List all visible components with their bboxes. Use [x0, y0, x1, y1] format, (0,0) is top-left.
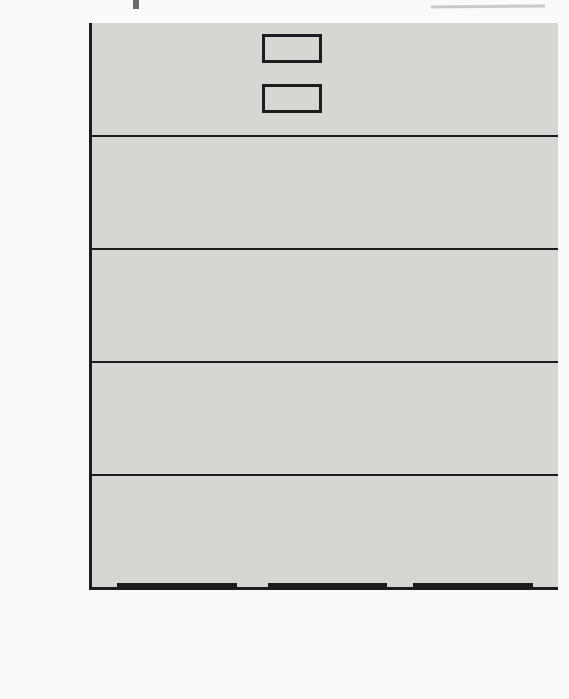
gridline-10 — [92, 474, 558, 476]
bar-girls-both-parents — [177, 583, 237, 587]
legend-swatch-girls — [262, 84, 322, 113]
gridline-40 — [92, 135, 558, 137]
bar-boys-both-parents — [117, 583, 177, 587]
bar-chart-figure — [0, 0, 569, 699]
plot-area — [89, 23, 558, 590]
bar-boys-neither-parent — [413, 583, 473, 587]
scan-artifact-streak — [431, 4, 545, 8]
bar-boys-one-parent — [268, 583, 327, 587]
legend-entry-boys — [262, 34, 334, 63]
gridline-30 — [92, 248, 558, 250]
scan-artifact-mark — [133, 0, 139, 9]
bar-girls-one-parent — [327, 583, 387, 587]
legend-entry-girls — [262, 84, 334, 113]
bar-girls-neither-parent — [473, 583, 533, 587]
gridline-20 — [92, 361, 558, 363]
legend — [262, 34, 334, 134]
legend-swatch-boys — [262, 34, 322, 63]
